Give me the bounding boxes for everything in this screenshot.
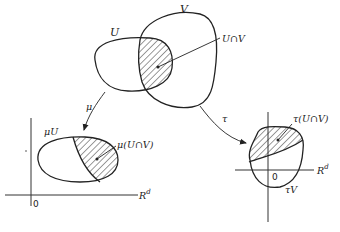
right-origin-label: 0 xyxy=(272,172,278,182)
left-space-label: Rd xyxy=(138,188,151,201)
left-tick-dot xyxy=(25,150,27,152)
top-sets: U V U∩V xyxy=(95,3,246,108)
tau-label: τ xyxy=(222,113,228,124)
tau-arrow xyxy=(200,106,246,143)
tau-map: τ xyxy=(200,106,246,143)
mu-intersection-dot xyxy=(96,158,99,161)
right-chart: τ(U∩V) 0 τV Rd xyxy=(235,112,329,222)
tau-intersection-dot xyxy=(277,139,280,142)
left-origin-label: 0 xyxy=(33,199,39,209)
left-chart: μU μ(U∩V) 0 Rd xyxy=(5,118,154,209)
mu-label: μ xyxy=(86,101,92,112)
mu-u-label: μU xyxy=(44,126,59,137)
right-space-label: Rd xyxy=(316,163,329,176)
mu-intersection-label: μ(U∩V) xyxy=(117,139,154,150)
set-v-label: V xyxy=(180,3,189,16)
manifold-charts-diagram: U V U∩V μ τ μU μ(U∩V) 0 Rd xyxy=(0,0,340,232)
tau-intersection-label: τ(U∩V) xyxy=(293,113,329,124)
tau-v-label: τV xyxy=(285,184,298,195)
intersection-dot xyxy=(156,65,159,68)
mu-map: μ xyxy=(84,92,105,130)
intersection-region xyxy=(139,12,217,107)
set-u-label: U xyxy=(110,26,120,39)
intersection-label: U∩V xyxy=(222,33,246,44)
